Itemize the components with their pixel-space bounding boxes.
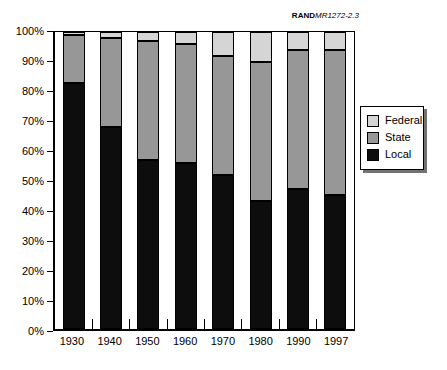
segment-local-1960 xyxy=(175,163,197,329)
segment-federal-1950 xyxy=(137,32,159,41)
segment-state-1970 xyxy=(212,56,234,175)
segment-local-1997 xyxy=(324,195,346,329)
segment-state-1960 xyxy=(175,44,197,163)
legend-swatch-local xyxy=(367,149,379,161)
segment-state-1940 xyxy=(100,38,122,127)
y-tick-label-50: 50% xyxy=(22,175,44,188)
x-boundary-tick-6 xyxy=(279,319,280,329)
bar-1970 xyxy=(212,32,234,329)
figure-label: RANDMR1272-2.3 xyxy=(292,11,359,20)
bar-cell-1940 xyxy=(92,32,129,329)
figure-label-report: MR1272-2.3 xyxy=(315,11,359,20)
y-tick-label-100: 100% xyxy=(16,25,44,38)
y-tick-label-70: 70% xyxy=(22,115,44,128)
segment-local-1930 xyxy=(63,83,85,330)
segment-federal-1990 xyxy=(287,32,309,50)
y-axis: 0%10%20%30%40%50%60%70%80%90%100% xyxy=(0,31,53,331)
bar-1980 xyxy=(250,32,272,329)
plot-area xyxy=(53,31,355,331)
x-label-1980: 1980 xyxy=(242,334,280,352)
x-label-1990: 1990 xyxy=(280,334,318,352)
bar-cell-1980 xyxy=(242,32,279,329)
bar-1940 xyxy=(100,32,122,329)
segment-state-1980 xyxy=(250,62,272,202)
y-tick-label-10: 10% xyxy=(22,295,44,308)
legend-label-federal: Federal xyxy=(385,114,422,127)
bar-cell-1960 xyxy=(167,32,204,329)
x-label-1960: 1960 xyxy=(166,334,204,352)
bar-1997 xyxy=(324,32,346,329)
y-tick-label-0: 0% xyxy=(28,325,44,338)
y-tick-label-40: 40% xyxy=(22,205,44,218)
x-label-1930: 1930 xyxy=(53,334,91,352)
bar-1960 xyxy=(175,32,197,329)
x-boundary-tick-2 xyxy=(129,319,130,329)
legend-label-local: Local xyxy=(385,148,411,161)
x-label-1997: 1997 xyxy=(317,334,355,352)
y-tick-label-60: 60% xyxy=(22,145,44,158)
segment-federal-1970 xyxy=(212,32,234,56)
x-boundary-tick-4 xyxy=(204,319,205,329)
segment-local-1990 xyxy=(287,189,309,329)
x-label-1970: 1970 xyxy=(204,334,242,352)
bar-cell-1997 xyxy=(317,32,354,329)
segment-state-1997 xyxy=(324,50,346,196)
bar-cell-1970 xyxy=(205,32,242,329)
segment-local-1940 xyxy=(100,127,122,329)
y-tick-label-20: 20% xyxy=(22,265,44,278)
x-label-1940: 1940 xyxy=(91,334,129,352)
legend-label-state: State xyxy=(385,131,411,144)
segment-state-1950 xyxy=(137,41,159,160)
legend-item-federal: Federal xyxy=(367,114,423,127)
x-boundary-tick-7 xyxy=(316,319,317,329)
x-boundary-tick-3 xyxy=(167,319,168,329)
bar-1990 xyxy=(287,32,309,329)
bar-cell-1930 xyxy=(55,32,92,329)
legend-item-local: Local xyxy=(367,148,423,161)
segment-federal-1960 xyxy=(175,32,197,44)
x-boundary-tick-5 xyxy=(241,319,242,329)
bar-1950 xyxy=(137,32,159,329)
bar-cell-1990 xyxy=(279,32,316,329)
figure-canvas: RANDMR1272-2.3 0%10%20%30%40%50%60%70%80… xyxy=(0,0,447,370)
legend: FederalStateLocal xyxy=(360,106,424,170)
segment-federal-1997 xyxy=(324,32,346,50)
y-tick-label-80: 80% xyxy=(22,85,44,98)
segment-local-1980 xyxy=(250,201,272,329)
bar-cell-1950 xyxy=(130,32,167,329)
legend-swatch-federal xyxy=(367,115,379,127)
y-tick-label-30: 30% xyxy=(22,235,44,248)
legend-item-state: State xyxy=(367,131,423,144)
x-boundary-tick-1 xyxy=(92,319,93,329)
segment-state-1930 xyxy=(63,35,85,83)
segment-local-1950 xyxy=(137,160,159,329)
segment-federal-1980 xyxy=(250,32,272,62)
legend-swatch-state xyxy=(367,132,379,144)
x-axis: 19301940195019601970198019901997 xyxy=(53,334,355,352)
segment-state-1990 xyxy=(287,50,309,190)
figure-label-brand: RAND xyxy=(292,11,315,20)
bar-1930 xyxy=(63,32,85,329)
x-label-1950: 1950 xyxy=(129,334,167,352)
y-tick-label-90: 90% xyxy=(22,55,44,68)
segment-local-1970 xyxy=(212,175,234,329)
